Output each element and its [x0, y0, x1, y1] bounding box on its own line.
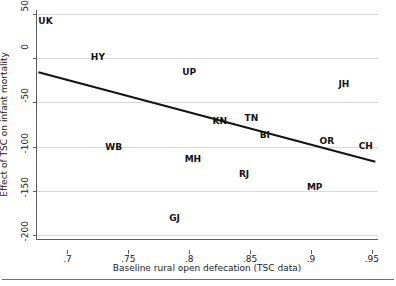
x-tick-label: .9: [307, 255, 316, 264]
data-point-label: UP: [182, 67, 196, 76]
data-point-label: KN: [212, 116, 227, 125]
data-point-label: GJ: [169, 213, 180, 222]
x-tick-label: .85: [243, 255, 257, 264]
fit-line-segment: [39, 73, 374, 162]
data-point-label: JH: [338, 79, 349, 88]
data-point-label: BI: [260, 131, 270, 140]
data-point-label: CH: [359, 141, 373, 150]
data-point-label: MH: [185, 154, 202, 163]
x-tick-label: .8: [185, 255, 194, 264]
data-point-label: WB: [105, 142, 122, 151]
data-point-label: RJ: [239, 169, 249, 178]
fit-line: [37, 10, 378, 239]
y-tick-label: 0: [21, 44, 30, 50]
y-axis-title: Effect of TSC on infant mortality: [0, 10, 10, 239]
data-point-label: UK: [38, 16, 52, 25]
data-point-label: TN: [244, 114, 258, 123]
chart-figure: Effect of TSC on infant mortality Baseli…: [0, 0, 396, 286]
y-tick-label: -150: [21, 177, 30, 197]
x-tick-label: .7: [63, 255, 72, 264]
y-tick-label: 50: [21, 0, 30, 11]
data-point-label: MP: [307, 183, 323, 192]
data-point-label: HY: [91, 52, 105, 61]
y-tick-label: -100: [21, 133, 30, 153]
plot-area: 500-50-100-150-200 .7.75.8.85.9.95 UKHYU…: [37, 10, 378, 239]
x-tick-label: .75: [121, 255, 135, 264]
x-tick-label: .95: [365, 255, 379, 264]
y-tick-label: -200: [21, 221, 30, 241]
footer-divider: [2, 279, 394, 280]
data-point-label: OR: [320, 137, 335, 146]
x-axis-line: [36, 239, 378, 240]
y-tick-label: -50: [21, 88, 30, 103]
x-axis-title: Baseline rural open defecation (TSC data…: [36, 263, 378, 274]
